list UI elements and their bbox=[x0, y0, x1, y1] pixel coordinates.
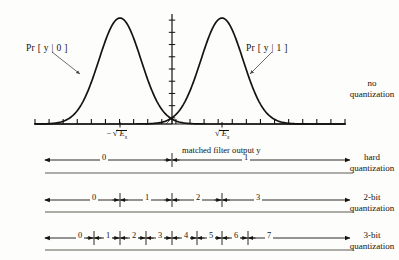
band-region-label: 0 bbox=[76, 232, 84, 240]
figure-canvas: 01012301234567Pr [ y | 0 ]Pr [ y | 1 ]−√… bbox=[0, 0, 399, 260]
right-pdf-label: Pr [ y | 1 ] bbox=[246, 44, 288, 54]
band-hard-quantization bbox=[45, 153, 353, 173]
band-region-label: 0 bbox=[100, 154, 108, 162]
band-region-label: 3 bbox=[254, 194, 262, 202]
right-energy-marker-label: √Es bbox=[214, 129, 229, 140]
band-region-label: 4 bbox=[182, 232, 190, 240]
band-region-label: 6 bbox=[232, 232, 240, 240]
band-region-label: 5 bbox=[207, 232, 215, 240]
left-energy-marker-label: −√Es bbox=[106, 129, 127, 140]
side-label-2: hardquantization bbox=[346, 152, 398, 175]
side-label-1: noquantization bbox=[346, 78, 398, 101]
diagram-graphics bbox=[0, 0, 399, 260]
pdf-curves bbox=[35, 18, 345, 124]
main-axis bbox=[35, 14, 345, 128]
band-3-bit-quantization bbox=[45, 231, 353, 250]
band-region-label: 1 bbox=[104, 232, 112, 240]
band-region-label: 2 bbox=[130, 232, 138, 240]
matched-filter-output-label: matched filter output y bbox=[182, 146, 261, 155]
band-region-label: 1 bbox=[143, 194, 151, 202]
side-label-3: 2-bitquantization bbox=[346, 192, 398, 215]
band-region-label: 1 bbox=[242, 154, 250, 162]
side-label-4: 3-bitquantization bbox=[346, 230, 398, 253]
band-region-label: 3 bbox=[156, 232, 164, 240]
band-region-label: 0 bbox=[90, 194, 98, 202]
label-leader-lines bbox=[52, 52, 272, 74]
band-region-label: 2 bbox=[194, 194, 202, 202]
left-pdf-label: Pr [ y | 0 ] bbox=[26, 44, 68, 54]
band-region-label: 7 bbox=[265, 232, 273, 240]
